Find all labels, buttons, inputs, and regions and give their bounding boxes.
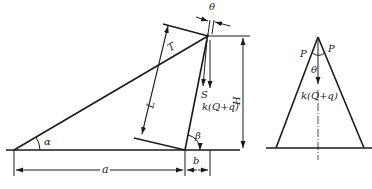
label-theta-right: θ xyxy=(311,64,317,75)
force-diagram: θ T S k(Q+q) L H α β a b P P θ k(Q+q) xyxy=(0,0,372,189)
label-load-right: k(Q+q) xyxy=(301,90,338,101)
label-T: T xyxy=(166,40,178,54)
left-figure xyxy=(6,17,250,176)
label-theta: θ xyxy=(209,1,215,12)
label-H: H xyxy=(231,96,242,106)
label-P-left: P xyxy=(299,48,307,59)
label-beta: β xyxy=(194,130,201,141)
guy-rope xyxy=(14,36,208,150)
label-P-right: P xyxy=(327,43,335,54)
l-ext-top xyxy=(163,24,208,36)
mast-line-outer xyxy=(212,20,214,34)
mast-line-inner xyxy=(208,20,210,34)
l-dimension xyxy=(142,26,168,134)
label-a: a xyxy=(102,163,109,176)
l-ext-bottom xyxy=(134,138,185,150)
label-L: L xyxy=(144,100,157,110)
label-alpha: α xyxy=(44,136,51,147)
alpha-arc xyxy=(36,137,40,150)
label-S: S xyxy=(201,89,208,100)
theta-arrow-left xyxy=(196,17,208,21)
label-b: b xyxy=(193,155,199,166)
theta-arrow-right xyxy=(215,22,230,26)
